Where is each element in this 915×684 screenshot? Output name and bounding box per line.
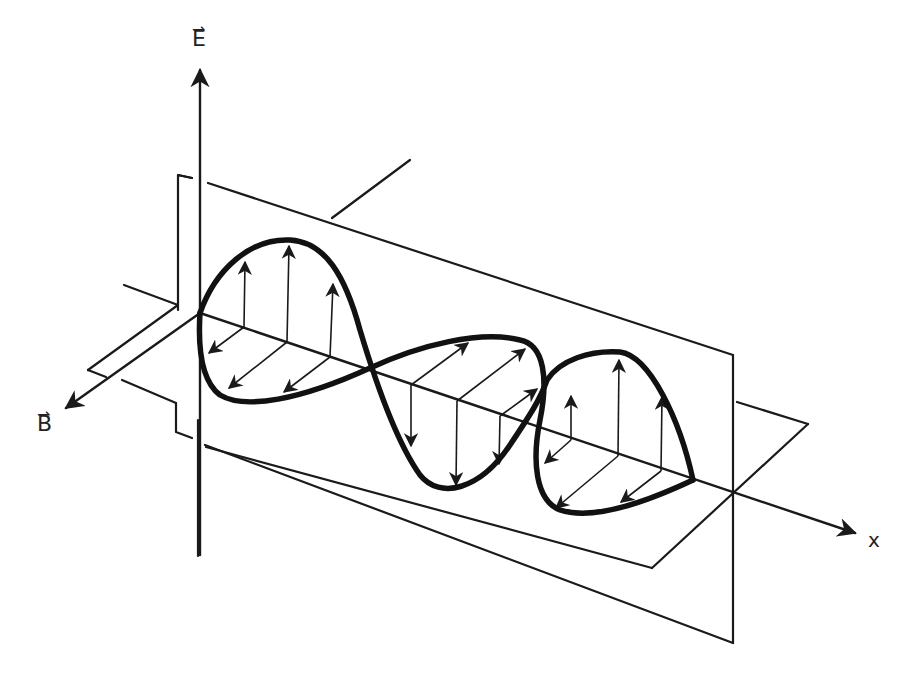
em-wave-diagram	[0, 0, 915, 684]
vector-arrow-mark: ⇀	[192, 22, 205, 38]
b-axis	[66, 313, 200, 408]
x-axis-label: x	[868, 530, 880, 550]
b-field-plane	[88, 160, 808, 568]
e-axis-label: ⇀ E	[192, 28, 206, 50]
b-axis-label: ⇀ B	[37, 413, 52, 435]
vector-arrow-mark: ⇀	[37, 407, 50, 423]
e-field-vectors	[244, 246, 662, 485]
